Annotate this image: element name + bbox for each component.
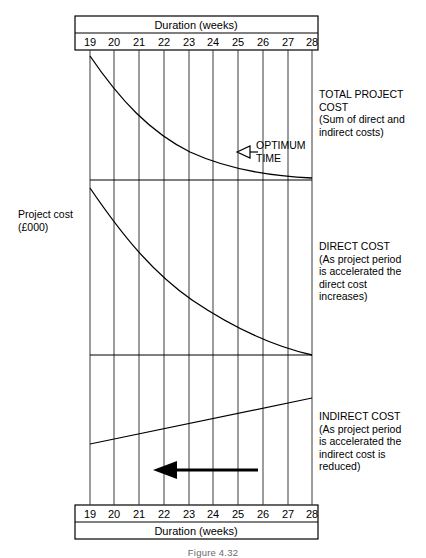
annotation-indirect-sub-line3: indirect cost is	[319, 448, 423, 461]
bottom-tick-27: 27	[282, 508, 294, 520]
optimum-time-marker	[237, 146, 258, 158]
optimum-time-line1: OPTIMUM	[256, 139, 306, 151]
acceleration-arrow-icon	[153, 461, 258, 479]
annotation-indirect-heading-line1: INDIRECT COST	[319, 410, 423, 423]
bottom-tick-26: 26	[257, 508, 269, 520]
annotation-direct-sub-line1: (As project period	[319, 253, 423, 266]
optimum-time-line2: TIME	[256, 152, 281, 164]
top-tick-28: 28	[306, 36, 318, 48]
annotation-total-sub-line1: (Sum of direct and	[319, 113, 423, 126]
curve-direct-cost	[90, 188, 312, 355]
annotation-indirect-cost: INDIRECT COST (As project period is acce…	[319, 410, 423, 473]
top-tick-23: 23	[183, 36, 195, 48]
annotation-direct-sub-line4: increases)	[319, 290, 423, 303]
top-tick-26: 26	[257, 36, 269, 48]
optimum-time-label: OPTIMUM TIME	[256, 139, 326, 164]
bottom-tick-24: 24	[207, 508, 219, 520]
annotation-direct-cost: DIRECT COST (As project period is accele…	[319, 240, 423, 303]
annotation-indirect-sub-line4: reduced)	[319, 460, 423, 473]
optimum-time-arrowhead-icon	[237, 146, 250, 158]
top-tick-20: 20	[108, 36, 120, 48]
annotation-direct-sub-line3: direct cost	[319, 278, 423, 291]
bottom-tick-20: 20	[108, 508, 120, 520]
top-tick-27: 27	[282, 36, 294, 48]
annotation-direct-heading-line1: DIRECT COST	[319, 240, 423, 253]
bottom-tick-23: 23	[183, 508, 195, 520]
top-tick-labels: 19 20 21 22 23 24 25 26 27 28	[84, 36, 318, 48]
bottom-tick-labels: 19 20 21 22 23 24 25 26 27 28	[84, 508, 318, 520]
bottom-tick-25: 25	[232, 508, 244, 520]
top-axis-title: Duration (weeks)	[154, 19, 237, 31]
y-axis-label-line2: (£000)	[18, 221, 48, 233]
annotation-indirect-sub-line2: is accelerated the	[319, 435, 423, 448]
top-tick-25: 25	[232, 36, 244, 48]
top-tick-21: 21	[133, 36, 145, 48]
acceleration-arrow-head	[153, 461, 177, 479]
bottom-tick-21: 21	[133, 508, 145, 520]
bottom-tick-22: 22	[158, 508, 170, 520]
y-axis-label-line1: Project cost	[18, 208, 73, 220]
top-tick-22: 22	[158, 36, 170, 48]
top-tick-24: 24	[207, 36, 219, 48]
annotation-total-heading-line1: TOTAL PROJECT	[319, 88, 423, 101]
annotation-total-project-cost: TOTAL PROJECT COST (Sum of direct and in…	[319, 88, 423, 138]
bottom-axis-title: Duration (weeks)	[154, 525, 237, 537]
bottom-tick-19: 19	[84, 508, 96, 520]
bottom-tick-28: 28	[306, 508, 318, 520]
annotation-indirect-sub-line1: (As project period	[319, 423, 423, 436]
line-indirect-cost	[90, 398, 312, 444]
annotation-total-sub-line2: indirect costs)	[319, 126, 423, 139]
y-axis-label: Project cost (£000)	[18, 208, 110, 234]
top-tick-19: 19	[84, 36, 96, 48]
annotation-direct-sub-line2: is accelerated the	[319, 265, 423, 278]
annotation-total-heading-line2: COST	[319, 101, 423, 114]
figure-caption: Figure 4.32	[0, 547, 426, 558]
